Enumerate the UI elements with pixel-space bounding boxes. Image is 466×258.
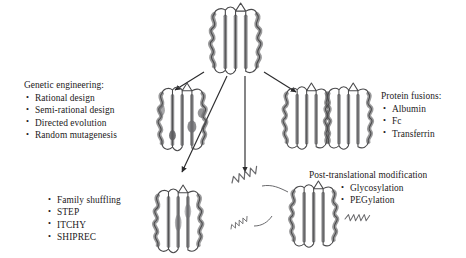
list-item: •Glycosylation [339, 182, 427, 194]
parent-protein-structure [210, 3, 261, 74]
list-item: •Directed evolution [24, 117, 117, 129]
peg-chain-right [345, 215, 370, 221]
list-item: •ITCHY [46, 219, 121, 231]
glycan-chain-lower-left [229, 216, 249, 230]
bullet-icon: • [341, 194, 344, 206]
list-item: •STEP [46, 206, 121, 218]
protein-fusions-heading: Protein fusions: [381, 90, 441, 102]
list-item: •Random mutagenesis [24, 129, 117, 141]
list-item: •PEGylation [339, 194, 427, 206]
genetic-engineering-block: Genetic engineering: •Rational design •S… [24, 79, 117, 142]
list-item-label: Random mutagenesis [35, 130, 117, 140]
bullet-icon: • [26, 129, 29, 141]
genetic-engineering-list: •Rational design •Semi-rational design •… [24, 92, 117, 142]
list-item-label: ITCHY [57, 220, 86, 230]
recombination-block: •Family shuffling •STEP •ITCHY •SHIPREC [46, 194, 121, 244]
bullet-icon: • [26, 104, 29, 116]
figure-canvas: Genetic engineering: •Rational design •S… [0, 0, 466, 258]
list-item-label: Family shuffling [57, 195, 121, 205]
list-item-label: STEP [57, 207, 79, 217]
list-item: •Family shuffling [46, 194, 121, 206]
bullet-icon: • [48, 206, 51, 218]
bullet-icon: • [341, 182, 344, 194]
mutated-protein-structure [158, 83, 206, 151]
bullet-icon: • [26, 116, 29, 128]
recombination-list: •Family shuffling •STEP •ITCHY •SHIPREC [46, 194, 121, 244]
list-item-label: SHIPREC [57, 232, 96, 242]
fusion-protein-structure [283, 83, 372, 149]
bullet-icon: • [383, 127, 386, 139]
bullet-icon: • [383, 115, 386, 127]
protein-fusions-block: Protein fusions: •Albumin •Fc •Transferr… [381, 90, 441, 140]
bullet-icon: • [48, 194, 51, 206]
list-item: •Albumin [381, 103, 441, 115]
bullet-icon: • [383, 103, 386, 115]
list-item: •Transferrin [381, 128, 441, 140]
recombined-protein-structure [154, 185, 202, 253]
bullet-icon: • [48, 231, 51, 243]
list-item-label: Transferrin [392, 129, 435, 139]
list-item: •Fc [381, 115, 441, 127]
list-item-label: Fc [392, 116, 402, 126]
post-translational-modification-heading: Post-translational modification [309, 169, 427, 181]
post-translational-modification-list: •Glycosylation •PEGylation [339, 182, 427, 207]
list-item: •Rational design [24, 92, 117, 104]
list-item: •SHIPREC [46, 231, 121, 243]
bullet-icon: • [48, 218, 51, 230]
genetic-engineering-heading: Genetic engineering: [24, 79, 117, 91]
list-item-label: Rational design [35, 93, 95, 103]
list-item-label: Directed evolution [35, 118, 106, 128]
list-item-label: Albumin [392, 104, 426, 114]
list-item: •Semi-rational design [24, 104, 117, 116]
protein-fusions-list: •Albumin •Fc •Transferrin [381, 103, 441, 140]
bullet-icon: • [26, 92, 29, 104]
list-item-label: PEGylation [350, 195, 395, 205]
list-item-label: Semi-rational design [35, 105, 114, 115]
post-translational-modification-block: Post-translational modification •Glycosy… [309, 169, 427, 207]
list-item-label: Glycosylation [350, 183, 404, 193]
